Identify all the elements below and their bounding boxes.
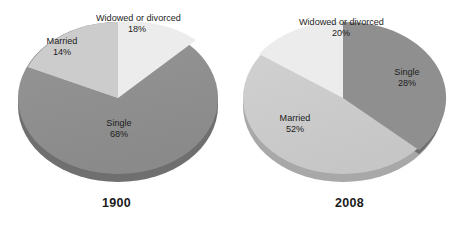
pie-chart-figure: Married 14% Widowed or divorced 18% Sing… [0, 0, 466, 229]
chart-title-1900: 1900 [0, 196, 233, 210]
chart-1900: Married 14% Widowed or divorced 18% Sing… [0, 0, 233, 229]
pie-faces-1900 [18, 21, 218, 174]
chart-2008: Widowed or divorced 20% Single 28% Marri… [233, 0, 466, 229]
pie-1900-graphic [0, 0, 233, 196]
pie-2008-graphic [233, 0, 466, 196]
pie-stage-2008: Widowed or divorced 20% Single 28% Marri… [233, 0, 466, 196]
pie-stage-1900: Married 14% Widowed or divorced 18% Sing… [0, 0, 233, 196]
chart-title-2008: 2008 [233, 196, 466, 210]
